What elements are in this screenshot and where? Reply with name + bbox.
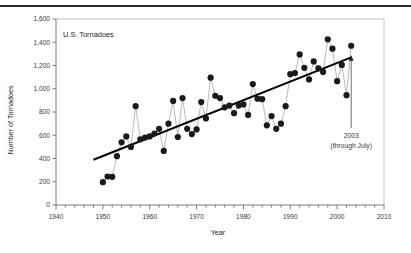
data-point-marker (109, 174, 115, 180)
x-tick-label: 1960 (142, 213, 157, 220)
data-point-marker (114, 153, 120, 159)
y-tick-label: 1,200 (33, 62, 50, 69)
data-point-marker (217, 95, 223, 101)
annotation-note-label: (through July) (330, 142, 372, 150)
data-point-marker (329, 46, 335, 52)
data-point-marker (170, 98, 176, 104)
y-axis-title: Number of Tornadoes (6, 85, 15, 154)
data-point-marker (292, 70, 298, 76)
y-tick-label: 800 (39, 108, 50, 115)
chart-plot-area: 02004006008001,0001,2001,4001,600 194019… (0, 0, 411, 253)
x-tick-label: 1970 (189, 213, 204, 220)
data-point-marker (165, 121, 171, 127)
y-tick-label: 400 (39, 155, 50, 162)
x-axis-tick-labels: 19401950196019701980199020002010 (49, 213, 392, 220)
data-point-marker (348, 43, 354, 49)
data-point-marker (259, 96, 265, 102)
x-tick-label: 1940 (49, 213, 64, 220)
data-point-marker (175, 134, 181, 140)
x-tick-label: 1980 (236, 213, 251, 220)
data-point-marker (193, 126, 199, 132)
data-point-marker (320, 69, 326, 75)
annotation-year-label: 2003 (344, 132, 359, 139)
annotation-callout: 2003(through July) (330, 55, 372, 150)
data-point-marker (334, 78, 340, 84)
data-point-markers (100, 36, 355, 185)
y-tick-label: 1,000 (33, 85, 50, 92)
y-tick-label: 0 (46, 201, 50, 208)
data-point-marker (343, 92, 349, 98)
data-point-marker (161, 148, 167, 154)
y-tick-label: 600 (39, 132, 50, 139)
data-point-marker (184, 126, 190, 132)
x-axis-title: Year (211, 228, 226, 237)
data-point-marker (119, 139, 125, 145)
data-point-marker (306, 76, 312, 82)
y-tick-label: 1,600 (33, 15, 50, 22)
y-tick-label: 1,400 (33, 39, 50, 46)
x-tick-label: 2000 (330, 213, 345, 220)
x-tick-label: 1950 (96, 213, 111, 220)
data-point-marker (278, 121, 284, 127)
x-tick-label: 2010 (377, 213, 392, 220)
data-point-marker (100, 179, 106, 185)
data-point-marker (339, 62, 345, 68)
data-point-marker (240, 101, 246, 107)
data-point-marker (198, 99, 204, 105)
data-point-marker (208, 75, 214, 81)
y-tick-label: 200 (39, 178, 50, 185)
data-point-marker (283, 103, 289, 109)
data-point-marker (311, 58, 317, 64)
series-title: U.S. Tornadoes (63, 30, 114, 39)
tornado-chart-figure: 02004006008001,0001,2001,4001,600 194019… (0, 0, 411, 253)
data-point-marker (179, 95, 185, 101)
y-axis-tick-labels: 02004006008001,0001,2001,4001,600 (33, 15, 50, 208)
data-point-marker (231, 110, 237, 116)
data-point-marker (273, 126, 279, 132)
data-point-marker (156, 126, 162, 132)
data-point-marker (268, 113, 274, 119)
data-point-marker (203, 115, 209, 121)
data-point-marker (226, 103, 232, 109)
data-point-marker (151, 130, 157, 136)
data-point-marker (301, 65, 307, 71)
data-point-marker (189, 131, 195, 137)
data-point-marker (250, 81, 256, 87)
data-point-marker (123, 133, 129, 139)
data-point-marker (245, 112, 251, 118)
x-tick-label: 1990 (283, 213, 298, 220)
data-point-marker (264, 122, 270, 128)
data-point-marker (297, 51, 303, 57)
data-point-marker (133, 103, 139, 109)
data-point-marker (325, 36, 331, 42)
data-point-marker (128, 144, 134, 150)
